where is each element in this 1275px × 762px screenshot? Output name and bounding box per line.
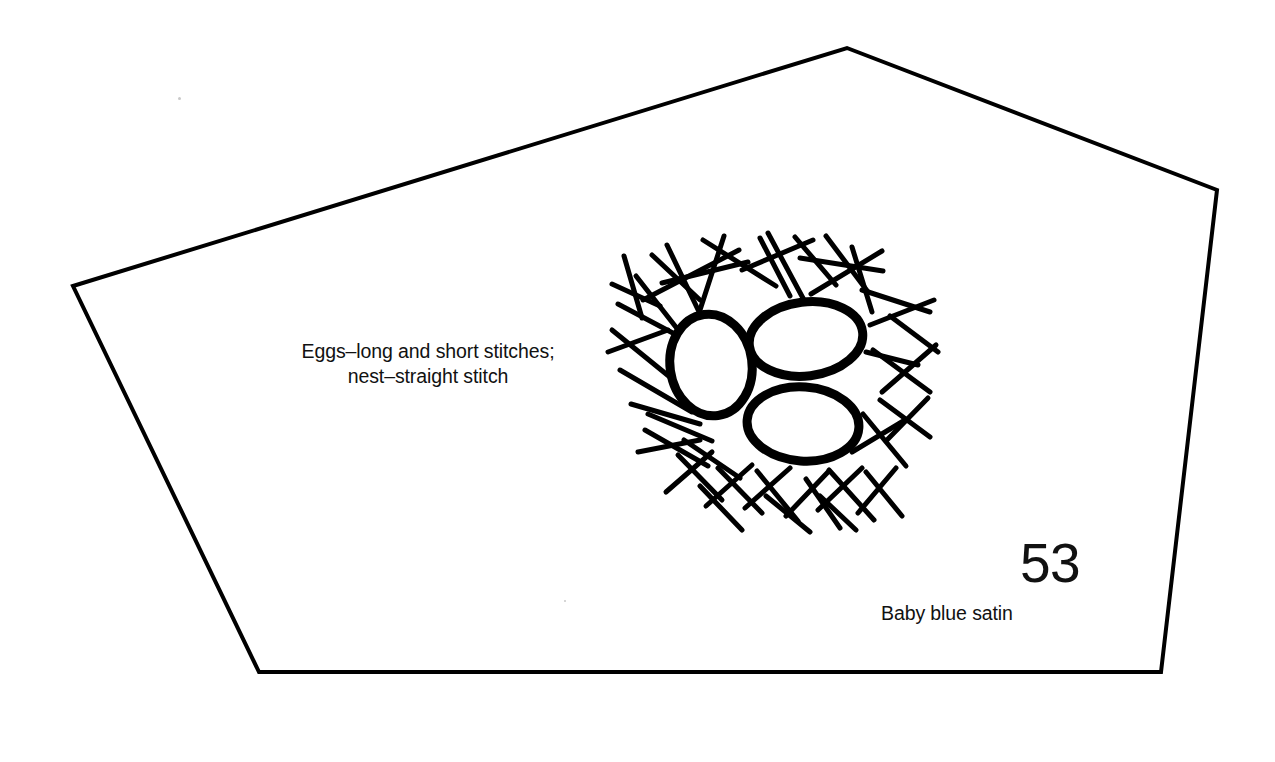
pattern-piece-number: 53 [1020, 529, 1080, 598]
egg-bottom-right [745, 383, 862, 465]
pattern-page: Eggs–long and short stitches; nest–strai… [0, 0, 1275, 762]
scan-speck-upper-left [178, 97, 181, 100]
fabric-label: Baby blue satin [881, 601, 1013, 626]
stitch-instruction-label: Eggs–long and short stitches; nest–strai… [283, 339, 573, 388]
pattern-drawing [0, 0, 1275, 762]
scan-speck-lower-center [564, 600, 566, 602]
